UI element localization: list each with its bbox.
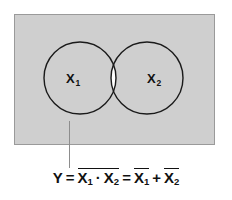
or-left-variable-subscript: 1 <box>144 176 149 187</box>
venn-diagram-figure: X 1 X 2 Y=X1·X2=X1+X2 <box>0 0 232 200</box>
formula-output: Y <box>53 170 63 185</box>
or-right-term: X2 <box>164 168 179 185</box>
nand-left-variable-base: X <box>78 169 88 186</box>
nand-left-variable: X1 <box>78 170 93 185</box>
leader-line <box>69 121 70 168</box>
or-right-variable: X2 <box>164 170 179 185</box>
or-left-variable: X1 <box>134 170 149 185</box>
or-operator-plus: + <box>149 170 164 185</box>
svg-text:2: 2 <box>157 78 162 88</box>
or-left-term: X1 <box>134 168 149 185</box>
venn-diagram-panel: X 1 X 2 <box>14 14 215 145</box>
or-right-variable-base: X <box>164 169 174 186</box>
boolean-formula: Y=X1·X2=X1+X2 <box>0 166 232 185</box>
nand-right-variable-subscript: 2 <box>114 176 119 187</box>
venn-diagram-graphic: X 1 X 2 <box>14 14 215 145</box>
nand-right-variable: X2 <box>104 170 119 185</box>
formula-nand-term: X1·X2 <box>78 168 120 185</box>
and-operator-dot: · <box>93 169 104 186</box>
nand-right-variable-base: X <box>104 169 114 186</box>
formula-equals-2: = <box>119 170 134 185</box>
or-right-variable-subscript: 2 <box>174 176 179 187</box>
svg-text:1: 1 <box>76 78 81 88</box>
svg-text:X: X <box>147 71 156 86</box>
formula-equals-1: = <box>63 170 78 185</box>
nand-left-variable-subscript: 1 <box>88 176 93 187</box>
or-left-variable-base: X <box>134 169 144 186</box>
svg-text:X: X <box>66 71 75 86</box>
